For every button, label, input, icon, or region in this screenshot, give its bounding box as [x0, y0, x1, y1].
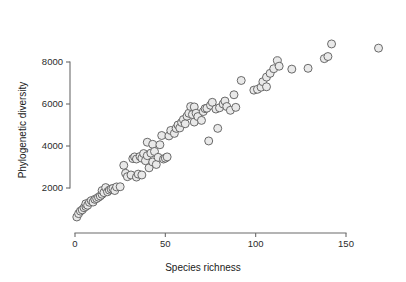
scatter-plot-figure: 0501001502000400060008000 Species richne…: [0, 0, 406, 282]
data-point: [138, 171, 146, 179]
data-point: [116, 183, 124, 191]
y-axis-tick-label: 2000: [42, 182, 63, 193]
data-point: [156, 141, 164, 149]
data-point: [237, 76, 245, 84]
x-axis-tick-label: 0: [72, 238, 77, 249]
plot-canvas: 0501001502000400060008000 Species richne…: [0, 0, 406, 282]
data-points-group: [73, 40, 383, 221]
data-point: [120, 161, 128, 169]
data-point: [230, 91, 238, 99]
x-axis-title: Species richness: [165, 262, 241, 273]
data-point: [324, 53, 332, 61]
data-point: [304, 64, 312, 72]
y-axis-tick-label: 8000: [42, 56, 63, 67]
data-point: [232, 103, 240, 111]
data-point: [288, 65, 296, 73]
x-axis-tick-label: 150: [338, 238, 354, 249]
data-point: [275, 62, 283, 70]
axes-group: [66, 62, 346, 237]
y-axis-title: Phylogenetic diversity: [17, 82, 28, 179]
tick-labels-group: 0501001502000400060008000: [42, 56, 354, 249]
x-axis-tick-label: 100: [248, 238, 264, 249]
data-point: [328, 40, 336, 48]
y-axis-tick-label: 6000: [42, 98, 63, 109]
data-point: [375, 44, 383, 52]
x-axis-tick-label: 50: [160, 238, 171, 249]
data-point: [163, 153, 171, 161]
data-point: [152, 160, 160, 168]
y-axis-tick-label: 4000: [42, 140, 63, 151]
data-point: [205, 137, 213, 145]
data-point: [197, 116, 205, 124]
data-point: [214, 124, 222, 132]
data-point: [181, 120, 189, 128]
data-point: [263, 83, 271, 91]
